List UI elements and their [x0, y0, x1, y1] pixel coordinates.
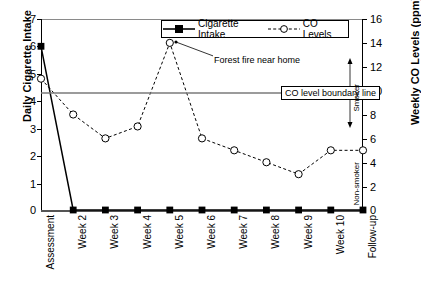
legend-item-co-levels[interactable]: CO Levels	[267, 18, 348, 40]
co-levels-point	[295, 171, 302, 178]
annotation-forest-fire: Forest fire near home	[213, 55, 301, 65]
cigarette-intake-point	[295, 207, 302, 214]
cigarette-intake-point	[199, 207, 206, 214]
label-non-smoker: Non-smoker	[352, 162, 361, 206]
co-levels-series	[37, 39, 366, 178]
legend-label-co-levels: CO Levels	[303, 18, 348, 40]
annotation-co-boundary: CO level boundary line	[281, 86, 380, 100]
label-smoker: Smoker	[352, 84, 361, 112]
x-tick-label: Week 10	[335, 215, 346, 254]
x-tick-label: Week 6	[206, 215, 217, 249]
fire-annotation-target	[174, 40, 177, 43]
co-levels-point	[70, 111, 77, 118]
cigarette-intake-point	[263, 207, 270, 214]
x-tick-label: Week 2	[77, 215, 88, 249]
co-levels-point	[327, 147, 334, 154]
cigarette-intake-point	[134, 207, 141, 214]
co-levels-point	[198, 135, 205, 142]
co-levels-point	[102, 135, 109, 142]
smoker-arrow-head	[348, 58, 353, 64]
x-tick-label: Week 8	[270, 215, 281, 249]
x-tick-label: Assessment	[45, 215, 56, 269]
co-levels-point	[231, 147, 238, 154]
legend-label-cigarette-intake: Cigarette Intake	[198, 18, 267, 40]
y-axis-title-right: Weekly CO Levels (ppm)	[409, 0, 421, 141]
legend[interactable]: Cigarette Intake CO Levels	[161, 20, 349, 38]
cigarette-intake-series	[38, 43, 367, 214]
x-tick-label: Week 9	[303, 215, 314, 249]
legend-swatch-co-levels	[267, 23, 300, 35]
cigarette-intake-point	[327, 207, 334, 214]
x-tick-label: Week 4	[142, 215, 153, 249]
co-levels-point	[134, 123, 141, 130]
x-tick-label: Follow-up	[367, 215, 378, 258]
co-levels-point	[166, 39, 173, 46]
legend-item-cigarette-intake[interactable]: Cigarette Intake	[162, 18, 267, 40]
cigarette-intake-point	[70, 207, 77, 214]
nonsmoker-arrow-head	[348, 122, 353, 128]
co-levels-point	[263, 159, 270, 166]
fire-annotation-leader	[176, 42, 216, 57]
cigarette-intake-point	[231, 207, 238, 214]
legend-swatch-cigarette-intake	[162, 23, 195, 35]
cigarette-intake-point	[166, 207, 173, 214]
co-levels-point	[37, 75, 44, 82]
x-tick-label: Week 3	[109, 215, 120, 249]
x-tick-label: Week 5	[174, 215, 185, 249]
cigarette-intake-point	[102, 207, 109, 214]
cigarette-intake-point	[38, 43, 45, 50]
co-levels-point	[359, 147, 366, 154]
x-tick-label: Week 7	[238, 215, 249, 249]
cigarette-intake-point	[360, 207, 367, 214]
